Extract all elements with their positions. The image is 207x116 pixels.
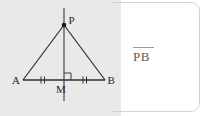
answer-card-border xyxy=(112,2,200,112)
vertex-label-a: A xyxy=(12,74,20,86)
right-angle-marker-at-m xyxy=(64,73,71,80)
answer-expression-text: PB xyxy=(133,50,150,63)
triangle-side-pb xyxy=(64,25,105,80)
point-p-dot xyxy=(62,23,67,28)
midpoint-label-m: M xyxy=(56,83,66,95)
screenshot-root: P A B M PB xyxy=(0,0,207,116)
vertex-label-p: P xyxy=(69,14,75,26)
answer-card-panel: PB xyxy=(121,0,207,116)
geometry-figure-panel: P A B M xyxy=(0,0,121,116)
segment-overbar-icon xyxy=(133,47,154,48)
triangle-side-pa xyxy=(23,25,64,80)
geometry-figure-svg: P A B M xyxy=(0,0,121,116)
